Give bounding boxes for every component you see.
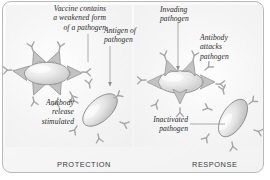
annotation-vaccine-contains: Vaccine contains a weakened form of a pa…: [12, 4, 106, 32]
caption-protection: PROTECTION: [57, 160, 111, 169]
pathogen-vaccine: [25, 62, 70, 84]
immunology-diagram-figure: Vaccine contains a weakened form of a pa…: [0, 0, 270, 180]
annotation-antigen-of-pathogen: Antigen of pathogen: [104, 26, 164, 45]
pathogen-invading: [158, 71, 203, 93]
pathogen-attacked: [213, 94, 254, 141]
annotation-antibody-attacks-pathogen: Antibody attacks pathogen: [200, 33, 262, 61]
annotation-antibody-release-stimulated: Antibody release stimulated: [6, 98, 74, 126]
annotation-inactivated-pathogen: Inactivated pathogen: [128, 115, 188, 134]
response-panel-illustration: [137, 51, 263, 151]
caption-response: RESPONSE: [192, 160, 237, 169]
annotation-invading-pathogen: Invading pathogen: [160, 5, 220, 24]
pathogen-protection-bound: [77, 88, 123, 132]
